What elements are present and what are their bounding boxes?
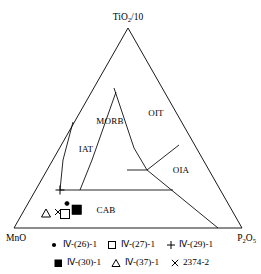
ternary-diagram-root: TiO2/10 MnO P2O5 MORB OIT IAT OIA CAB <box>0 0 261 274</box>
data-point-open-square[interactable] <box>61 210 70 219</box>
field-label-cab: CAB <box>96 205 115 215</box>
legend-entry-iv-29-1[interactable]: Ⅳ-(29)-1 <box>164 240 213 250</box>
legend-entry-iv-30-1[interactable]: Ⅳ-(30)-1 <box>52 258 101 268</box>
data-point-plus[interactable] <box>56 186 65 195</box>
legend-label-iv-27-1: Ⅳ-(27)-1 <box>121 240 155 249</box>
legend-label-iv-37-1: Ⅳ-(37)-1 <box>125 258 159 267</box>
boundary-iat-left <box>60 122 73 190</box>
ternary-plot-svg: TiO2/10 MnO P2O5 MORB OIT IAT OIA CAB <box>0 0 261 274</box>
boundary-oia-lower-right <box>147 170 218 228</box>
data-point-filled-square[interactable] <box>72 205 82 215</box>
plus-icon <box>164 240 177 250</box>
cross-icon <box>168 258 181 268</box>
triangle-outline <box>14 28 242 228</box>
legend-row-1: Ⅳ-(26)-1 Ⅳ-(27)-1 Ⅳ-(29)-1 <box>0 236 261 254</box>
legend-entry-iv-37-1[interactable]: Ⅳ-(37)-1 <box>110 258 159 268</box>
legend-row-2: Ⅳ-(30)-1 Ⅳ-(37)-1 2374-2 <box>0 254 261 272</box>
filled-circle-icon <box>48 240 61 250</box>
open-square-icon <box>106 240 119 250</box>
data-point-filled-circle[interactable] <box>65 201 69 205</box>
legend-entry-2374-2[interactable]: 2374-2 <box>168 258 209 268</box>
field-label-iat: IAT <box>79 144 94 154</box>
legend-entry-iv-26-1[interactable]: Ⅳ-(26)-1 <box>48 240 97 250</box>
legend: Ⅳ-(26)-1 Ⅳ-(27)-1 Ⅳ-(29)-1 Ⅳ-(30 <box>0 236 261 274</box>
legend-label-iv-26-1: Ⅳ-(26)-1 <box>63 240 97 249</box>
legend-label-iv-29-1: Ⅳ-(29)-1 <box>179 240 213 249</box>
legend-label-2374-2: 2374-2 <box>183 258 209 267</box>
legend-label-iv-30-1: Ⅳ-(30)-1 <box>67 258 101 267</box>
boundary-morb-oit <box>114 88 147 170</box>
apex-label-tio2: TiO2/10 <box>113 12 144 23</box>
field-label-oia: OIA <box>173 165 190 175</box>
data-point-open-triangle[interactable] <box>42 209 51 217</box>
field-label-oit: OIT <box>148 108 164 118</box>
boundary-morb-iat <box>80 92 116 190</box>
open-triangle-icon <box>110 258 123 268</box>
legend-entry-iv-27-1[interactable]: Ⅳ-(27)-1 <box>106 240 155 250</box>
field-label-morb: MORB <box>96 116 123 126</box>
filled-square-icon <box>52 258 65 268</box>
